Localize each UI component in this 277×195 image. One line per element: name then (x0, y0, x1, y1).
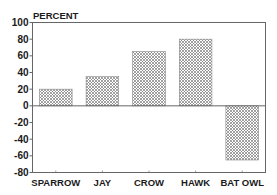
y-tick-label: 100 (12, 17, 29, 28)
x-tick-label: JAY (94, 177, 112, 188)
x-axis: SPARROWJAYCROWHAWKBAT OWL (31, 171, 264, 188)
x-tick-label: HAWK (181, 177, 210, 188)
bar-hawk (179, 39, 212, 106)
y-tick-label: 80 (17, 34, 29, 45)
y-tick-label: 60 (17, 50, 29, 61)
y-tick-label: -80 (14, 167, 29, 178)
x-tick-label: BAT OWL (220, 177, 264, 188)
x-tick-label: CROW (134, 177, 164, 188)
y-tick-label: -20 (14, 117, 29, 128)
y-axis: 100806040200-20-40-60-80 (12, 17, 33, 178)
x-tick-label: SPARROW (31, 177, 80, 188)
bar-crow (133, 52, 166, 106)
bars (39, 39, 258, 160)
y-tick-label: 20 (17, 84, 29, 95)
y-tick-label: 40 (17, 67, 29, 78)
y-tick-label: 0 (23, 100, 29, 111)
bar-sparrow (39, 89, 72, 106)
y-axis-label: PERCENT (33, 10, 79, 21)
y-tick-label: -60 (14, 150, 29, 161)
bar-bat-owl (226, 106, 259, 160)
y-tick-label: -40 (14, 134, 29, 145)
bar-jay (86, 77, 119, 106)
bar-chart: PERCENT 100806040200-20-40-60-80 SPARROW… (0, 0, 277, 195)
